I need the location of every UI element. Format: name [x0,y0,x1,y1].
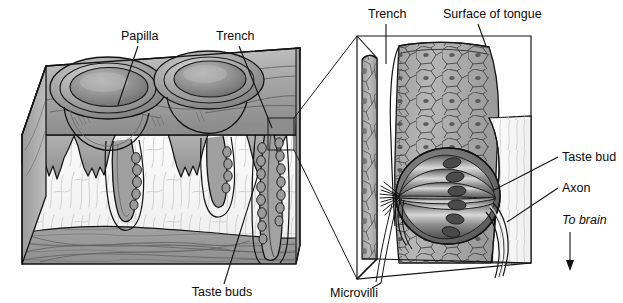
label-to-brain-group: To brain [562,213,607,271]
label-microvilli: Microvilli [330,286,378,300]
label-trench-right: Trench [368,7,406,21]
left-panel-tongue-block [18,48,303,270]
label-trench-left: Trench [216,29,254,43]
label-taste-bud: Taste bud [562,150,616,164]
label-axon: Axon [562,181,591,195]
label-microvilli-group: Microvilli [330,283,381,300]
block-top-surface [22,48,300,150]
taste-bud [396,148,500,244]
right-panel-taste-bud [357,36,536,283]
label-surface-of-tongue: Surface of tongue [443,7,542,21]
label-papilla: Papilla [121,29,159,43]
label-taste-buds: Taste buds [192,285,252,299]
diagram-canvas: Papilla Trench Taste buds Trench Surface… [0,0,623,303]
magnification-connector-lines [294,36,357,279]
taste-bud-figure: Papilla Trench Taste buds Trench Surface… [0,0,623,303]
to-brain-arrow-head [566,260,574,271]
label-to-brain: To brain [562,213,607,227]
